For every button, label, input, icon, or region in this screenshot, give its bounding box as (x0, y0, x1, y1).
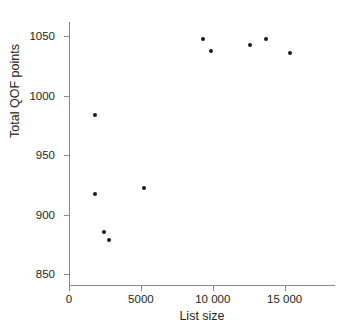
x-axis-title: List size (69, 309, 335, 323)
data-point (201, 37, 205, 41)
data-point (102, 230, 106, 234)
y-axis-tick (64, 155, 69, 156)
y-axis-tick-label: 850 (36, 268, 55, 280)
x-axis-tick-label: 10 000 (195, 293, 230, 305)
y-axis-tick-label: 950 (36, 149, 55, 161)
data-point (209, 49, 213, 53)
data-point (142, 186, 146, 190)
x-axis-tick-label: 0 (66, 293, 72, 305)
x-axis-tick-label: 5000 (128, 293, 154, 305)
y-axis-tick (64, 215, 69, 216)
data-point (288, 51, 292, 55)
y-axis-tick (64, 36, 69, 37)
data-point (93, 192, 97, 196)
y-axis-tick (64, 274, 69, 275)
y-axis-line (69, 22, 70, 286)
y-axis-tick-label: 1050 (29, 30, 55, 42)
y-axis-title: Total QOF points (8, 6, 22, 176)
y-axis-tick (64, 96, 69, 97)
y-axis-tick-label: 1000 (29, 90, 55, 102)
data-point (248, 43, 252, 47)
y-axis-tick-label: 900 (36, 209, 55, 221)
x-axis-tick-labels: 0500010 00015 000 (69, 286, 335, 310)
plot-area (69, 22, 335, 286)
x-axis-tick-label: 15 000 (267, 293, 302, 305)
scatter-plot-figure: 85090095010001050 0500010 00015 000 Tota… (0, 0, 339, 333)
data-point (107, 238, 111, 242)
data-point (264, 37, 268, 41)
clipped-figure-title (0, 0, 339, 3)
data-point (93, 113, 97, 117)
